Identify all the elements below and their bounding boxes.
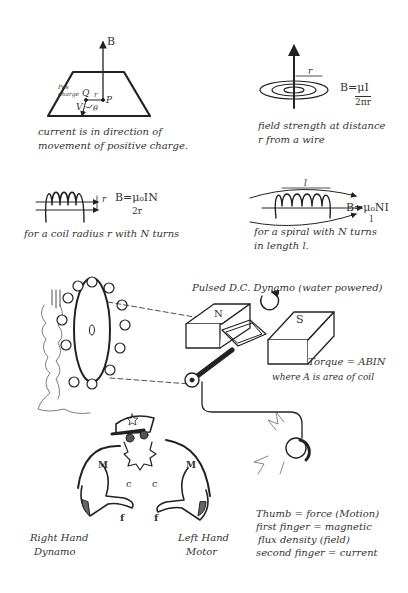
spiral-formula: B=μ₀NI [346,202,389,215]
positive-charge-label: Pos charge [58,84,78,98]
left-hand-f-label: f [154,512,158,524]
right-hand-label-line2: Dynamo [34,546,76,558]
dynamo-title: Pulsed D.C. Dynamo (water powered) [192,282,382,294]
rotation-arrow [261,292,279,310]
wire-caption-line2: r from a wire [258,134,325,146]
left-hand-label-line2: Motor [186,546,217,558]
spiral-caption-line1: for a spiral with N turns [254,226,377,238]
torque-formula: Torque = ABIN [308,356,385,368]
legend-first-finger: first finger = magnetic [256,521,372,533]
sunglass-left [126,434,134,442]
solenoid-loops [275,194,330,218]
belt-bottom [110,378,190,384]
right-hand-m-label: M [98,460,108,470]
right-hand-label-line1: Right Hand [30,532,88,544]
coil-r-label: r [102,194,106,204]
coil-formula-top: B=μ₀IN [115,192,158,205]
p-point [102,99,105,102]
r-label: r [94,91,97,99]
physics-sketch-page: B Pos charge Q P r V θ current is in dir… [0,0,408,593]
left-hand-c-label: c [152,478,158,490]
left-hand-m-label: M [186,460,196,470]
moving-charge-diagram [48,42,150,116]
charge-caption-line2: movement of positive charge. [38,140,188,152]
point-q-label: Q [82,88,89,98]
left-hand-label-line1: Left Hand [178,532,229,544]
magnet-n-label: N [214,308,223,320]
coil-diagram [36,192,98,222]
wheel-disc [74,278,110,382]
theta-arc [86,105,92,108]
wire-r-label: r [308,66,312,76]
coil-loops [46,192,84,222]
theta-label: θ [93,104,98,113]
magnet-s-label: S [296,314,304,327]
spiral-caption-line2: in length l. [254,240,309,252]
coil-formula-bottom: 2r [132,206,142,216]
sunglass-right [140,431,148,439]
spiral-l-label: l [304,178,307,188]
spiral-formula-sub: l [370,214,373,224]
coil-caption: for a coil radius r with N turns [24,228,179,240]
legend-flux-density: flux density (field) [258,534,350,546]
b-field-label: B [107,36,115,49]
beard [124,442,156,470]
velocity-label: V [76,102,83,112]
torque-note: where A is area of coil [272,372,374,382]
dynamo-magnets [185,292,334,474]
water-wheel [38,277,200,414]
wire-diagram [260,46,328,108]
right-hand-c-label: c [126,478,132,490]
wire-formula-top: B=μI [340,82,369,95]
wire-formula-bottom: 2πr [355,96,371,107]
output-wire [202,382,302,438]
point-p-label: P [106,95,112,105]
legend-thumb: Thumb = force (Motion) [256,508,379,520]
charge-caption-line1: current is in direction of [38,126,162,138]
light-burst [254,412,284,474]
legend-second-finger: second finger = current [256,547,378,559]
right-hand-f-label: f [120,512,124,524]
wire-caption-line1: field strength at distance [258,120,386,132]
